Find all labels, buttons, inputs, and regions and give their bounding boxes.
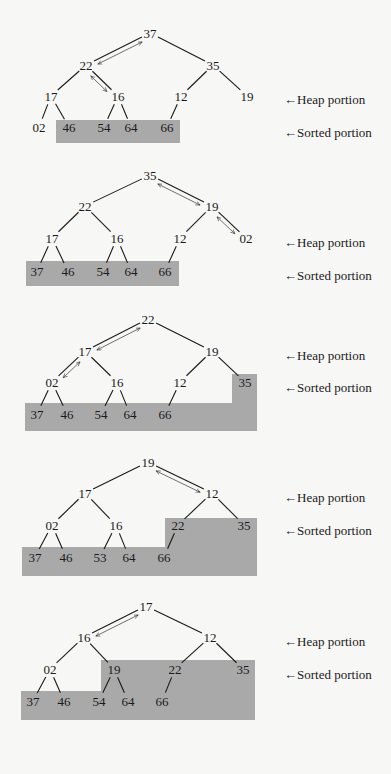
heap-portion-label: ←Heap portion (284, 92, 366, 107)
tree-node-value: 35 (238, 518, 251, 533)
tree-edge (42, 104, 48, 118)
tree-node-value: 22 (172, 518, 185, 533)
tree-node-value: 12 (206, 486, 219, 501)
tree-node-value: 17 (79, 344, 93, 359)
tree-node-value: 46 (61, 407, 75, 422)
tree-node-value: 16 (111, 375, 125, 390)
heap-step-2: 352219171612023746546466←Heap portion←So… (26, 168, 372, 286)
tree-node-value: 64 (125, 120, 139, 135)
tree-edge (56, 533, 63, 549)
tree-edge (107, 246, 114, 262)
tree-edge (220, 71, 241, 90)
tree-node-value: 16 (111, 231, 125, 246)
tree-edge (92, 610, 138, 633)
tree-node-value: 37 (27, 694, 41, 709)
tree-node-value: 22 (169, 662, 182, 677)
tree-edge (91, 357, 110, 375)
tree-edge (219, 357, 239, 376)
heap-step-5: 171612021922353746546466←Heap portion←So… (21, 599, 372, 720)
tree-node-value: 64 (123, 550, 137, 565)
heap-portion-label: ←Heap portion (284, 235, 366, 250)
tree-node-value: 37 (29, 550, 43, 565)
tree-edge (93, 179, 142, 202)
tree-edge (169, 246, 177, 263)
heap-portion-label: ←Heap portion (284, 348, 366, 363)
swap-arrow-icon (97, 328, 140, 350)
tree-node-value: 02 (44, 662, 57, 677)
heap-portion-label: ←Heap portion (284, 634, 366, 649)
tree-edge (58, 499, 78, 518)
tree-node-value: 16 (110, 518, 124, 533)
tree-edge (56, 104, 65, 119)
tree-node-value: 66 (161, 120, 175, 135)
tree-edge (121, 104, 127, 118)
tree-node-value: 02 (46, 518, 59, 533)
tree-edge (58, 212, 78, 231)
tree-edge (218, 499, 237, 518)
tree-node-value: 37 (144, 26, 158, 41)
tree-node-value: 64 (124, 407, 138, 422)
tree-edge (186, 357, 205, 375)
tree-node-value: 02 (46, 375, 59, 390)
heap-step-4: 191712021622353746536466←Heap portion←So… (22, 455, 372, 576)
tree-edge (93, 466, 140, 489)
tree-node-value: 22 (142, 312, 155, 327)
swap-arrow-icon (156, 471, 200, 492)
swap-arrow-icon (98, 42, 142, 64)
tree-node-value: 54 (93, 694, 107, 709)
tree-node-value: 17 (79, 486, 93, 501)
tree-edge (182, 643, 204, 663)
tree-node-value: 12 (174, 231, 187, 246)
tree-edge (41, 246, 49, 263)
tree-edge (91, 212, 110, 231)
tree-node-value: 54 (98, 120, 112, 135)
tree-node-value: 17 (45, 89, 59, 104)
swap-arrow-icon (96, 615, 138, 636)
tree-node-value: 53 (94, 550, 107, 565)
tree-node-value: 66 (159, 264, 173, 279)
tree-node-value: 64 (122, 694, 136, 709)
tree-node-value: 17 (140, 599, 154, 614)
tree-edge (158, 37, 205, 61)
tree-edge (171, 104, 178, 119)
tree-node-value: 54 (97, 264, 111, 279)
tree-node-value: 46 (60, 550, 74, 565)
heap-step-3: 221719021612353746546466←Heap portion←So… (25, 312, 372, 431)
tree-node-value: 37 (31, 407, 45, 422)
tree-edge (158, 179, 204, 202)
tree-node-value: 19 (241, 89, 254, 104)
swap-arrow-icon (158, 184, 200, 205)
tree-node-value: 19 (206, 344, 219, 359)
tree-node-value: 12 (204, 630, 217, 645)
tree-edge (104, 533, 112, 549)
tree-node-value: 02 (240, 231, 253, 246)
tree-node-value: 02 (33, 120, 46, 135)
tree-node-value: 66 (156, 694, 170, 709)
tree-node-value: 12 (174, 375, 187, 390)
tree-node-value: 35 (237, 662, 250, 677)
tree-edge (108, 104, 115, 119)
tree-node-value: 54 (95, 407, 109, 422)
tree-node-value: 64 (125, 264, 139, 279)
tree-node-value: 17 (46, 231, 60, 246)
tree-edge (54, 677, 61, 693)
tree-node-value: 19 (108, 662, 121, 677)
tree-node-value: 35 (144, 168, 157, 183)
tree-edge (185, 499, 206, 519)
heap-step-1: 372235171612190246546466←Heap portion←So… (33, 26, 373, 143)
sorted-portion-label: ←Sorted portion (284, 125, 372, 140)
tree-edge (94, 37, 142, 61)
swap-arrow-icon (91, 76, 107, 92)
tree-edge (121, 246, 128, 262)
tree-edge (119, 533, 125, 548)
sorted-portion-label: ←Sorted portion (284, 380, 372, 395)
tree-node-value: 46 (62, 264, 76, 279)
tree-node-value: 19 (142, 455, 155, 470)
tree-node-value: 22 (80, 58, 93, 73)
tree-node-value: 35 (239, 375, 252, 390)
tree-node-value: 46 (58, 694, 72, 709)
tree-edge (154, 610, 202, 633)
tree-edge (216, 643, 236, 662)
tree-node-value: 12 (175, 89, 188, 104)
tree-node-value: 66 (158, 550, 172, 565)
